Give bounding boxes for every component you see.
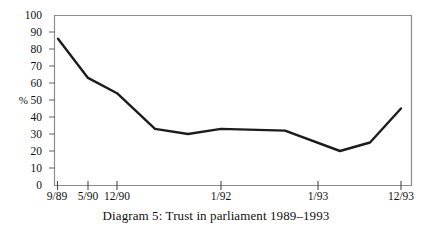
chart-figure: % 100 90 80 70 60 50 40 30 20 10 0 9/89 … [0, 0, 432, 232]
plot-area [0, 0, 432, 232]
figure-caption: Diagram 5: Trust in parliament 1989–1993 [0, 208, 432, 224]
data-line-trust-in-parliament [58, 39, 401, 151]
plot-frame [55, 16, 412, 186]
